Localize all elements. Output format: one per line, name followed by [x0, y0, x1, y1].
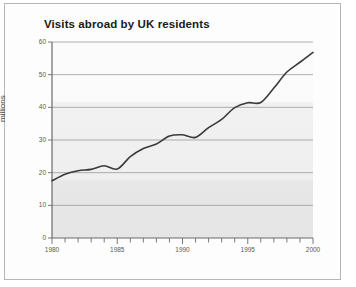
- x-tick-label-1990: 1990: [168, 246, 198, 253]
- y-tick-label-50: 50: [24, 71, 46, 78]
- y-tick-label-40: 40: [24, 103, 46, 110]
- chart-figure: Visits abroad by UK residents millions 0…: [0, 0, 356, 287]
- x-tick-label-1985: 1985: [102, 246, 132, 253]
- y-tick-label-20: 20: [24, 169, 46, 176]
- x-tick-label-1980: 1980: [37, 246, 67, 253]
- y-axis-title: millions: [0, 95, 7, 122]
- x-tick-label-2000: 2000: [298, 246, 328, 253]
- plot-area: [52, 42, 313, 238]
- y-tick-label-30: 30: [24, 136, 46, 143]
- x-tick-label-1995: 1995: [233, 246, 263, 253]
- x-axis-tick-marks: [48, 42, 313, 244]
- data-series-line: [52, 52, 313, 180]
- y-tick-label-10: 10: [24, 201, 46, 208]
- y-tick-label-0: 0: [24, 234, 46, 241]
- gridlines-group: [52, 42, 313, 205]
- y-tick-label-60: 60: [24, 38, 46, 45]
- chart-title: Visits abroad by UK residents: [44, 18, 210, 30]
- plot-svg: [52, 42, 313, 238]
